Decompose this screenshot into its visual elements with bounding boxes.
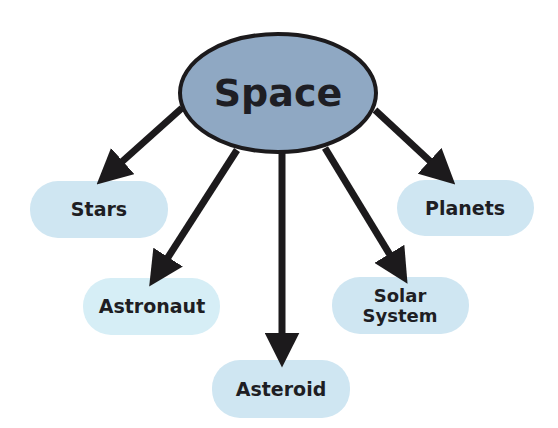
solar-system-label-line1: Solar xyxy=(374,285,427,306)
astronaut-label: Astronaut xyxy=(99,295,205,317)
node-stars[interactable]: Stars xyxy=(30,181,168,238)
node-asteroid[interactable]: Asteroid xyxy=(212,360,350,418)
space-mind-map: Stars Astronaut Asteroid Solar System Pl… xyxy=(0,0,558,428)
node-astronaut[interactable]: Astronaut xyxy=(83,278,220,335)
node-planets[interactable]: Planets xyxy=(397,180,534,236)
arrow-to-stars xyxy=(106,108,182,176)
arrow-to-planets xyxy=(375,110,446,176)
arrow-to-astronaut xyxy=(156,150,237,276)
solar-system-label-line2: System xyxy=(363,305,438,326)
space-label: Space xyxy=(214,71,343,115)
node-space-center[interactable]: Space xyxy=(180,34,376,152)
stars-label: Stars xyxy=(71,198,127,220)
asteroid-label: Asteroid xyxy=(236,378,327,400)
planets-label: Planets xyxy=(425,197,505,219)
arrow-to-solar-system xyxy=(325,148,401,273)
node-solar-system[interactable]: Solar System xyxy=(332,277,469,334)
